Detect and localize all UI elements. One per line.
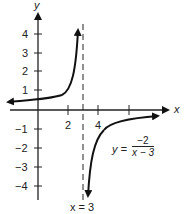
y-tick-label-neg3: −3	[15, 162, 28, 173]
equation-fraction: −2 x − 3	[132, 135, 154, 158]
y-tick-label-2: 2	[22, 66, 28, 77]
rational-function-graph: y x 4 3 2 1 −1 −2 −3 −4 2 4 x = 3 y = −2…	[0, 0, 184, 214]
equation-numerator: −2	[132, 135, 154, 147]
left-branch-curve	[8, 95, 62, 102]
equation-denominator: x − 3	[132, 147, 154, 158]
y-tick-label-neg4: −4	[15, 181, 28, 192]
y-axis-label: y	[34, 0, 40, 11]
right-branch-curve-lower	[88, 130, 104, 196]
y-tick-label-neg1: −1	[15, 124, 28, 135]
y-tick-label-1: 1	[22, 85, 28, 96]
asymptote-label: x = 3	[70, 202, 94, 213]
equation-lhs: y =	[112, 144, 127, 155]
y-tick-label-4: 4	[22, 29, 28, 40]
y-tick-label-neg2: −2	[15, 143, 28, 154]
left-branch-curve-upper	[62, 30, 78, 95]
x-tick-label-2: 2	[65, 120, 71, 131]
y-tick-label-3: 3	[22, 48, 28, 59]
right-branch-curve	[104, 116, 158, 130]
x-tick-label-4: 4	[95, 120, 101, 131]
x-axis-label: x	[174, 104, 180, 115]
